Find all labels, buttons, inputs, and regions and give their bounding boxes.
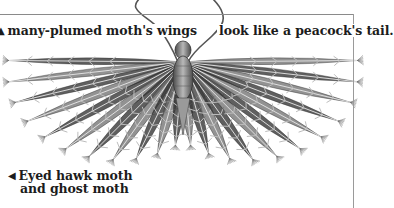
triangle-up-icon: ▲ bbox=[0, 24, 5, 37]
caption-wings-text: many-plumed moth's wings bbox=[8, 23, 197, 38]
caption-hawk-ghost-moth: ◀Eyed hawk moth and ghost moth bbox=[8, 169, 132, 195]
caption-peacock: look like a peacock's tail. bbox=[217, 24, 394, 37]
right-rule-divider bbox=[353, 14, 354, 208]
triangle-left-icon: ◀ bbox=[8, 169, 16, 182]
top-rule-divider bbox=[0, 14, 353, 15]
caption-hawk-line2: and ghost moth bbox=[8, 182, 132, 195]
caption-peacock-text: look like a peacock's tail. bbox=[219, 23, 394, 38]
caption-wings: ▲many-plumed moth's wings bbox=[0, 24, 200, 37]
